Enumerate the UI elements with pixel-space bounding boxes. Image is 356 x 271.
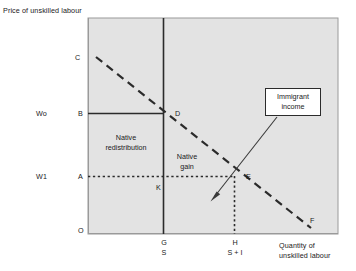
native-gain-line1: Native — [166, 152, 208, 162]
diagram-canvas — [0, 0, 356, 271]
native-gain-line2: gain — [166, 162, 208, 172]
x-tick-sublabel-s-plus-i: S + I — [219, 248, 251, 258]
y-tick-label-w1: W1 — [36, 172, 47, 181]
x-tick-sublabel-s: S — [153, 248, 175, 258]
origin-label-o: O — [78, 226, 84, 235]
region-label-native-redistribution: Native redistribution — [90, 133, 162, 152]
x-axis-title-line1: Quantity of — [279, 241, 331, 251]
point-label-f: F — [310, 216, 315, 225]
x-axis-title-line2: unskilled labour — [279, 251, 331, 261]
callout-line1: Immigrant — [268, 92, 318, 102]
x-tick-label-g: G — [153, 238, 175, 248]
region-label-native-gain: Native gain — [166, 152, 208, 171]
y-tick-label-wo: Wo — [36, 109, 47, 118]
point-label-a: A — [78, 172, 83, 181]
y-axis-title: Price of unskilled labour — [3, 6, 82, 15]
point-label-e: E — [246, 172, 251, 181]
callout-immigrant-income: Immigrant income — [265, 88, 321, 116]
x-axis-title: Quantity of unskilled labour — [279, 241, 331, 260]
point-label-b: B — [78, 109, 83, 118]
x-tick-label-h: H — [222, 238, 248, 248]
point-label-c: C — [75, 53, 80, 62]
point-label-d: D — [175, 109, 180, 118]
native-redistribution-line1: Native — [90, 133, 162, 143]
point-label-k: K — [156, 183, 161, 192]
native-redistribution-line2: redistribution — [90, 143, 162, 153]
immigration-surplus-diagram: Price of unskilled labour Quantity of un… — [0, 0, 356, 271]
callout-line2: income — [268, 102, 318, 112]
plot-area-background — [88, 18, 338, 234]
